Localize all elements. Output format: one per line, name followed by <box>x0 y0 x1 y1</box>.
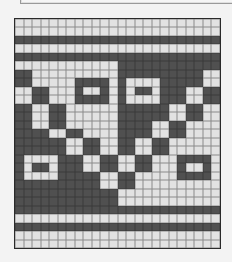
grid-cell-r2-c0[interactable] <box>15 36 24 44</box>
grid-cell-r25-c17[interactable] <box>160 231 169 239</box>
grid-cell-r18-c23[interactable] <box>211 172 220 180</box>
grid-cell-r5-c20[interactable] <box>186 61 195 69</box>
grid-cell-r26-c3[interactable] <box>41 240 50 248</box>
grid-cell-r14-c20[interactable] <box>186 138 195 146</box>
grid-cell-r16-c20[interactable] <box>186 155 195 163</box>
grid-cell-r13-c12[interactable] <box>118 129 127 137</box>
grid-cell-r26-c9[interactable] <box>92 240 101 248</box>
grid-cell-r8-c10[interactable] <box>100 87 109 95</box>
grid-cell-r22-c16[interactable] <box>152 206 161 214</box>
grid-cell-r2-c7[interactable] <box>75 36 84 44</box>
grid-cell-r1-c1[interactable] <box>24 27 33 35</box>
grid-cell-r19-c19[interactable] <box>177 180 186 188</box>
grid-cell-r8-c9[interactable] <box>92 87 101 95</box>
grid-cell-r16-c8[interactable] <box>83 155 92 163</box>
grid-cell-r3-c10[interactable] <box>100 44 109 52</box>
grid-cell-r26-c0[interactable] <box>15 240 24 248</box>
grid-cell-r11-c2[interactable] <box>32 112 41 120</box>
grid-cell-r10-c22[interactable] <box>203 104 212 112</box>
grid-cell-r24-c20[interactable] <box>186 223 195 231</box>
grid-cell-r18-c11[interactable] <box>109 172 118 180</box>
grid-cell-r24-c17[interactable] <box>160 223 169 231</box>
grid-cell-r10-c12[interactable] <box>118 104 127 112</box>
grid-cell-r26-c10[interactable] <box>100 240 109 248</box>
grid-cell-r0-c22[interactable] <box>203 19 212 27</box>
grid-cell-r1-c14[interactable] <box>135 27 144 35</box>
grid-cell-r19-c23[interactable] <box>211 180 220 188</box>
grid-cell-r1-c20[interactable] <box>186 27 195 35</box>
grid-cell-r19-c21[interactable] <box>194 180 203 188</box>
grid-cell-r9-c19[interactable] <box>177 95 186 103</box>
grid-cell-r21-c17[interactable] <box>160 197 169 205</box>
grid-cell-r11-c4[interactable] <box>49 112 58 120</box>
grid-cell-r14-c19[interactable] <box>177 138 186 146</box>
grid-cell-r17-c3[interactable] <box>41 163 50 171</box>
grid-cell-r3-c0[interactable] <box>15 44 24 52</box>
grid-cell-r16-c9[interactable] <box>92 155 101 163</box>
grid-cell-r14-c22[interactable] <box>203 138 212 146</box>
grid-cell-r9-c22[interactable] <box>203 95 212 103</box>
grid-cell-r1-c0[interactable] <box>15 27 24 35</box>
grid-cell-r10-c21[interactable] <box>194 104 203 112</box>
grid-cell-r22-c19[interactable] <box>177 206 186 214</box>
grid-cell-r14-c3[interactable] <box>41 138 50 146</box>
grid-cell-r1-c6[interactable] <box>66 27 75 35</box>
grid-cell-r25-c20[interactable] <box>186 231 195 239</box>
grid-cell-r12-c10[interactable] <box>100 121 109 129</box>
grid-cell-r24-c12[interactable] <box>118 223 127 231</box>
grid-cell-r25-c15[interactable] <box>143 231 152 239</box>
grid-cell-r2-c11[interactable] <box>109 36 118 44</box>
grid-cell-r17-c9[interactable] <box>92 163 101 171</box>
grid-cell-r7-c7[interactable] <box>75 78 84 86</box>
grid-cell-r24-c19[interactable] <box>177 223 186 231</box>
grid-cell-r15-c0[interactable] <box>15 146 24 154</box>
grid-cell-r0-c14[interactable] <box>135 19 144 27</box>
grid-cell-r8-c16[interactable] <box>152 87 161 95</box>
grid-cell-r16-c10[interactable] <box>100 155 109 163</box>
grid-cell-r23-c14[interactable] <box>135 214 144 222</box>
grid-cell-r8-c21[interactable] <box>194 87 203 95</box>
grid-cell-r13-c16[interactable] <box>152 129 161 137</box>
grid-cell-r17-c8[interactable] <box>83 163 92 171</box>
grid-cell-r26-c2[interactable] <box>32 240 41 248</box>
grid-cell-r20-c15[interactable] <box>143 189 152 197</box>
grid-cell-r9-c17[interactable] <box>160 95 169 103</box>
grid-cell-r25-c11[interactable] <box>109 231 118 239</box>
grid-cell-r2-c19[interactable] <box>177 36 186 44</box>
grid-cell-r8-c8[interactable] <box>83 87 92 95</box>
grid-cell-r20-c4[interactable] <box>49 189 58 197</box>
grid-cell-r20-c9[interactable] <box>92 189 101 197</box>
grid-cell-r7-c12[interactable] <box>118 78 127 86</box>
grid-cell-r9-c0[interactable] <box>15 95 24 103</box>
grid-cell-r14-c11[interactable] <box>109 138 118 146</box>
grid-cell-r7-c20[interactable] <box>186 78 195 86</box>
grid-cell-r3-c7[interactable] <box>75 44 84 52</box>
grid-cell-r4-c5[interactable] <box>58 53 67 61</box>
grid-cell-r17-c11[interactable] <box>109 163 118 171</box>
grid-cell-r6-c10[interactable] <box>100 70 109 78</box>
grid-cell-r6-c18[interactable] <box>169 70 178 78</box>
grid-cell-r8-c12[interactable] <box>118 87 127 95</box>
grid-cell-r13-c10[interactable] <box>100 129 109 137</box>
grid-cell-r20-c12[interactable] <box>118 189 127 197</box>
grid-cell-r15-c1[interactable] <box>24 146 33 154</box>
grid-cell-r15-c21[interactable] <box>194 146 203 154</box>
grid-cell-r24-c6[interactable] <box>66 223 75 231</box>
grid-cell-r8-c23[interactable] <box>211 87 220 95</box>
grid-cell-r24-c14[interactable] <box>135 223 144 231</box>
grid-cell-r16-c12[interactable] <box>118 155 127 163</box>
grid-cell-r25-c23[interactable] <box>211 231 220 239</box>
grid-cell-r14-c0[interactable] <box>15 138 24 146</box>
grid-cell-r18-c8[interactable] <box>83 172 92 180</box>
grid-cell-r9-c6[interactable] <box>66 95 75 103</box>
grid-cell-r9-c20[interactable] <box>186 95 195 103</box>
grid-cell-r2-c14[interactable] <box>135 36 144 44</box>
grid-cell-r0-c6[interactable] <box>66 19 75 27</box>
grid-cell-r26-c17[interactable] <box>160 240 169 248</box>
grid-cell-r23-c0[interactable] <box>15 214 24 222</box>
grid-cell-r15-c8[interactable] <box>83 146 92 154</box>
grid-cell-r24-c18[interactable] <box>169 223 178 231</box>
grid-cell-r23-c4[interactable] <box>49 214 58 222</box>
grid-cell-r2-c1[interactable] <box>24 36 33 44</box>
grid-cell-r16-c11[interactable] <box>109 155 118 163</box>
